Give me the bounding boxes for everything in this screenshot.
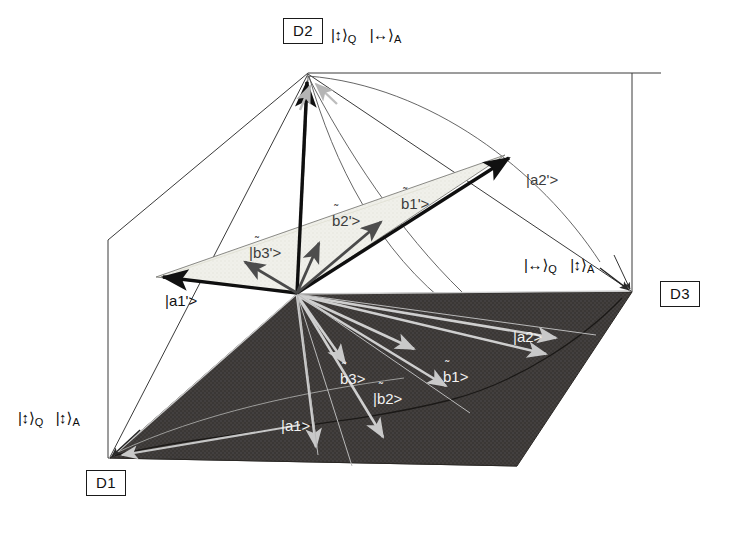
edge-upper-left	[108, 73, 308, 240]
vector-label-b3-prime: |b˜3'>	[249, 245, 281, 260]
basis-label-d2: |↕⟩Q |↔⟩A	[331, 27, 401, 45]
lower-plane-surface	[110, 292, 632, 466]
detector-box-d3[interactable]: D3	[660, 281, 700, 307]
diagram-canvas	[0, 0, 736, 535]
vector-label-b3: b˜3>	[340, 371, 365, 386]
detector-box-d2[interactable]: D2	[283, 18, 323, 44]
d3-corner-arrow	[600, 255, 630, 290]
detector-box-d1[interactable]: D1	[86, 470, 126, 496]
basis-label-d3: |↔⟩Q |↕⟩A	[524, 257, 594, 275]
vector-label-a2-prime: |a2'>	[526, 172, 558, 187]
vector-label-a2: |a2>	[513, 329, 542, 344]
vector-label-b1: b˜1>	[443, 369, 468, 384]
vector-label-a1-prime: |a1'>	[165, 293, 197, 308]
vector-label-a1: |a1>	[281, 418, 310, 433]
lower-plane	[110, 292, 632, 466]
basis-label-d1: |↕⟩Q |↕⟩A	[18, 410, 80, 428]
vector-label-b1-prime: b˜1'>	[401, 196, 429, 211]
arrow-into-d3	[600, 268, 629, 290]
vector-label-b2-prime: b˜2'>	[332, 213, 360, 228]
vector-label-b2: |b˜2>	[373, 391, 402, 406]
diagram-stage: D1 D2 D3 |↕⟩Q |↔⟩A |↔⟩Q |↕⟩A |↕⟩Q |↕⟩A |…	[0, 0, 736, 535]
